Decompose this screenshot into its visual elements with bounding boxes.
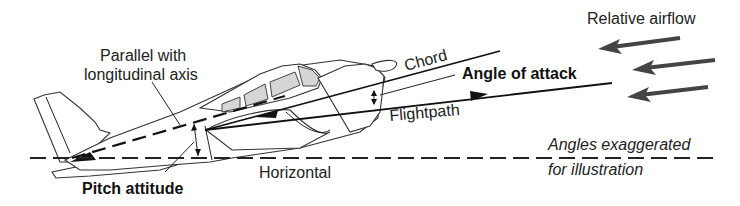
parallel-label-line2: longitudinal axis (84, 66, 198, 83)
airflow-arrow (627, 87, 708, 102)
airflow-arrow (598, 38, 680, 54)
airflow-arrow (632, 60, 715, 75)
note-label-line2: for illustration (548, 161, 643, 178)
parallel-label-line1: Parallel with (100, 47, 186, 64)
angle-of-attack-diagram: Parallel with longitudinal axis Chord An… (0, 0, 740, 206)
angle-of-attack-leader-line (380, 75, 455, 95)
relative-airflow-label: Relative airflow (587, 10, 696, 27)
chord-label: Chord (402, 46, 448, 74)
horizontal-label: Horizontal (259, 164, 331, 181)
relative-airflow-arrows (598, 38, 715, 102)
flightpath-label: Flightpath (389, 101, 460, 124)
pitch-attitude-label: Pitch attitude (82, 180, 183, 197)
angle-of-attack-label: Angle of attack (462, 65, 577, 82)
note-label-line1: Angles exaggerated (547, 136, 691, 153)
spinner (372, 60, 397, 71)
flightpath-arrowhead (470, 91, 488, 101)
